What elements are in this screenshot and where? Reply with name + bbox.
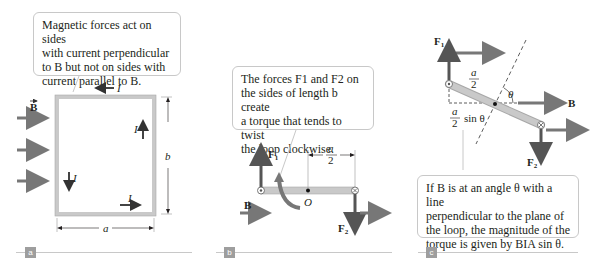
svg-text:F1: F1: [268, 148, 279, 162]
svg-text:F1: F1: [434, 35, 445, 49]
callout-c-line-2: perpendicular to the plane of: [426, 209, 570, 223]
svg-text:a: a: [328, 142, 334, 154]
current-loop: [57, 97, 154, 214]
panel-label-c: c: [426, 247, 437, 258]
sin-theta-label: sin θ: [464, 112, 485, 124]
svg-text:I: I: [127, 192, 133, 204]
callout-c: If B is at an angle θ with a line perpen…: [417, 175, 579, 238]
svg-text:F2: F2: [527, 156, 538, 170]
b-label: B: [30, 101, 38, 113]
svg-text:2: 2: [471, 78, 477, 90]
svg-text:I: I: [116, 82, 122, 94]
svg-text:I: I: [133, 123, 139, 135]
dim-b-label: b: [165, 150, 171, 162]
svg-text:2: 2: [452, 117, 458, 129]
svg-text:I: I: [72, 172, 78, 184]
divider-a: [16, 252, 192, 253]
dim-a-label: a: [103, 222, 109, 234]
svg-text:2: 2: [328, 154, 334, 166]
divider-c: [418, 252, 578, 253]
divider-b: [216, 252, 392, 253]
callout-c-line-1: If B is at an angle θ with a line: [426, 181, 570, 209]
panel-a: Magnetic forces act on sides with curren…: [0, 0, 200, 272]
svg-text:B: B: [244, 199, 252, 211]
normal-line-dashed: [476, 40, 526, 144]
theta-label: θ: [508, 88, 514, 100]
svg-text:a: a: [471, 66, 477, 78]
svg-text:F2: F2: [338, 222, 349, 236]
origin-label: O: [304, 196, 312, 208]
panel-label-a: a: [25, 247, 36, 258]
svg-text:B: B: [568, 97, 576, 109]
callout-c-line-4: torque is given by BIA sin θ.: [426, 237, 570, 251]
callout-c-line-3: the loop, the magnitude of the: [426, 223, 570, 237]
panel-b: The forces F1 and F2 on the sides of len…: [200, 0, 400, 272]
panel-c: θ B F1 F2 a 2 a 2 sin θ If B is at an an…: [400, 0, 596, 272]
panel-label-b: b: [224, 247, 235, 258]
svg-text:a: a: [452, 105, 458, 117]
loop-diagram-b: O F1 F2 B a 2: [200, 0, 400, 272]
loop-diagram-a: B I I I I b a: [0, 0, 200, 272]
